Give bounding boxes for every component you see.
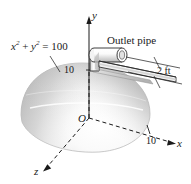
figure-canvas: x2 + y2 = 100 Outlet pipe 2 ft y x z O 1… <box>0 0 191 184</box>
axis-label-x: x <box>177 138 182 149</box>
origin-label: O <box>78 113 86 124</box>
diagram-graphics <box>0 0 191 184</box>
tick-label-x-10: 10 <box>146 136 156 146</box>
axis-label-z: z <box>34 166 38 177</box>
equation-value: 100 <box>51 40 68 52</box>
tick-label-y-10: 10 <box>64 65 74 75</box>
pipe-length-label: 2 ft <box>157 66 171 76</box>
axis-label-y: y <box>92 10 97 21</box>
outlet-pipe-label: Outlet pipe <box>107 35 156 46</box>
equation-label: x2 + y2 = 100 <box>11 41 68 52</box>
equation-plus: + <box>19 40 31 52</box>
equation-equals: = <box>40 40 52 52</box>
